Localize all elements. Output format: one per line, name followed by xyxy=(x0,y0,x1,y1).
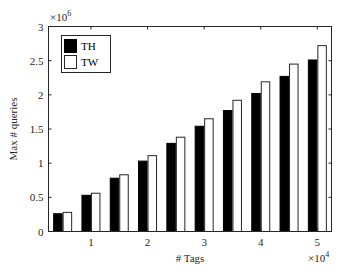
bar-tw xyxy=(318,46,327,232)
bar-th xyxy=(308,60,317,232)
bar-th xyxy=(54,214,63,232)
y-tick-label: 1 xyxy=(38,157,44,169)
y-tick-label: 2.5 xyxy=(30,55,44,67)
x-axis-label: # Tags xyxy=(176,252,205,264)
legend-label-tw: TW xyxy=(81,56,99,68)
x-tick-label: 4 xyxy=(258,236,264,248)
bar-tw xyxy=(205,119,214,232)
y-tick-label: 1.5 xyxy=(30,123,44,135)
legend-label-th: TH xyxy=(81,40,96,52)
bar-th xyxy=(167,143,176,231)
bar-th xyxy=(110,178,119,231)
legend: TH TW xyxy=(62,36,111,73)
legend-swatch-tw xyxy=(65,56,77,69)
y-tick-label: 3 xyxy=(38,21,44,33)
bar-th xyxy=(195,126,204,231)
y-tick-label: 2 xyxy=(38,89,44,101)
bar-th xyxy=(280,76,289,231)
bar-tw xyxy=(63,212,72,231)
x-tick-label: 5 xyxy=(315,236,321,248)
x-tick-label: 1 xyxy=(88,236,94,248)
bar-tw xyxy=(120,175,129,232)
y-tick-label: 0.5 xyxy=(30,191,44,203)
bars xyxy=(54,46,327,232)
x-tick-label: 3 xyxy=(201,236,207,248)
legend-swatch-th xyxy=(65,40,77,53)
bar-tw xyxy=(233,100,242,231)
bar-tw xyxy=(148,156,157,232)
bar-tw xyxy=(290,64,299,231)
bar-th xyxy=(82,195,91,231)
bar-th xyxy=(223,111,232,232)
bar-tw xyxy=(176,137,185,231)
bar-tw xyxy=(91,193,100,231)
bar-th xyxy=(252,93,261,231)
y-tick-label: 0 xyxy=(38,226,44,238)
x-multiplier: ×104 xyxy=(308,250,329,264)
bar-tw xyxy=(261,82,270,232)
x-tick-label: 2 xyxy=(145,236,151,248)
bar-th xyxy=(139,161,148,231)
y-multiplier: ×106 xyxy=(50,9,71,23)
bar-chart: 00.511.522.53 12345 ×106 ×104 # Tags Max… xyxy=(0,0,348,276)
y-axis-label: Max # queries xyxy=(7,98,19,161)
